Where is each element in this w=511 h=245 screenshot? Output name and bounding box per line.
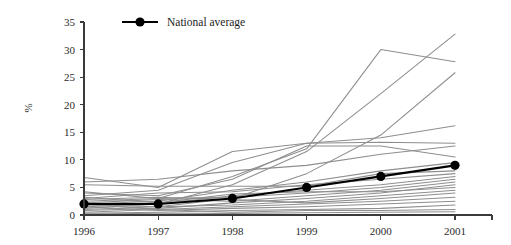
chart-series-line — [84, 73, 455, 210]
y-tick-label: 0 — [70, 209, 76, 221]
chart-series-line — [84, 146, 455, 182]
chart-series-line — [84, 50, 455, 202]
legend: National average — [122, 16, 245, 29]
y-tick-label: 35 — [64, 16, 76, 28]
line-chart: 05101520253035 199619971998199920002001 … — [0, 0, 511, 245]
x-tick-label: 1998 — [221, 225, 244, 237]
y-tick-label: 25 — [64, 71, 76, 83]
y-axis-ticks: 05101520253035 — [64, 16, 84, 221]
chart-series-line — [84, 34, 455, 207]
x-tick-label: 1996 — [73, 225, 96, 237]
legend-label: National average — [167, 16, 245, 29]
legend-marker-icon — [135, 17, 144, 26]
national-average-point — [302, 183, 311, 192]
national-average-point — [450, 161, 459, 170]
gray-series-group — [84, 34, 455, 214]
national-average-point — [376, 172, 385, 181]
y-axis-title: % — [22, 103, 34, 112]
y-tick-label: 30 — [64, 44, 76, 56]
y-tick-label: 20 — [64, 99, 76, 111]
y-tick-label: 15 — [64, 126, 76, 138]
chart-container: 05101520253035 199619971998199920002001 … — [0, 0, 511, 245]
chart-series-line — [84, 179, 455, 198]
x-axis-ticks: 199619971998199920002001 — [73, 215, 492, 237]
x-tick-label: 1999 — [296, 225, 319, 237]
y-tick-label: 10 — [64, 154, 76, 166]
x-tick-label: 2000 — [370, 225, 393, 237]
national-average-point — [154, 199, 163, 208]
national-average-point — [228, 194, 237, 203]
x-tick-label: 1997 — [147, 225, 170, 237]
x-tick-label: 2001 — [444, 225, 466, 237]
y-tick-label: 5 — [70, 181, 76, 193]
